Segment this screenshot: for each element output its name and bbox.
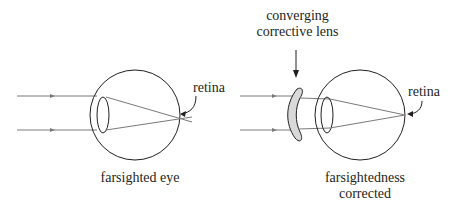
refracted-ray-top xyxy=(330,99,405,115)
refracted-ray-bottom xyxy=(330,115,405,128)
caption-right: farsightedness corrected xyxy=(315,170,415,202)
farsighted-eye-diagram xyxy=(17,70,196,160)
ray-arrow-icon xyxy=(272,94,277,98)
retina-label-left: retina xyxy=(193,80,225,96)
ray-arrow-icon xyxy=(50,128,55,132)
lens-label-line1: converging xyxy=(255,8,340,24)
lens-label-line2: corrective lens xyxy=(255,24,340,40)
ray-arrow-icon xyxy=(272,128,277,132)
retina-pointer xyxy=(182,96,196,114)
caption-right-line2: corrected xyxy=(315,186,415,202)
eyeball xyxy=(315,70,405,160)
caption-left: farsighted eye xyxy=(90,170,190,186)
caption-right-line1: farsightedness xyxy=(315,170,415,186)
bent-ray-bottom xyxy=(298,128,330,129)
lens-label: converging corrective lens xyxy=(255,8,340,40)
ray-arrow-icon xyxy=(50,94,55,98)
lens-arrow-icon xyxy=(293,70,299,78)
retina-arrow-icon xyxy=(407,111,413,117)
refracted-ray-top xyxy=(106,97,192,122)
retina-arrow-icon xyxy=(180,111,186,117)
retina-label-right: retina xyxy=(408,84,440,100)
eye-lens xyxy=(97,97,109,133)
corrected-eye-diagram xyxy=(240,50,422,160)
